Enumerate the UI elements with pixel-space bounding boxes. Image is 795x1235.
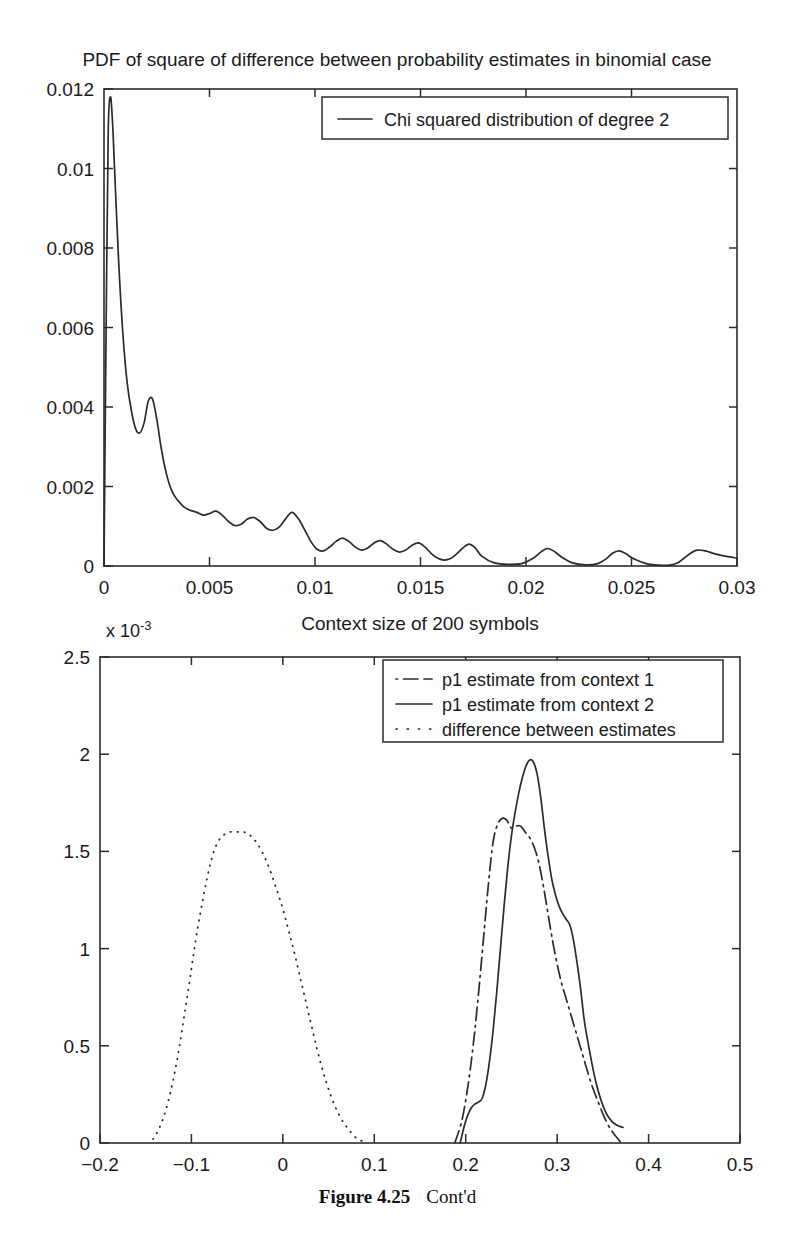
bottom-chart-series-difference [153, 832, 362, 1141]
x-tick-label: 0.025 [608, 577, 656, 598]
figure-canvas: PDF of square of difference between prob… [0, 0, 795, 1235]
x-tick-label: 0.2 [453, 1154, 479, 1175]
figure-caption-label: Figure 4.25 [319, 1186, 410, 1207]
top-chart-x-ticks [104, 89, 737, 566]
bottom-chart-y-multiplier: x 10-3 [106, 618, 152, 641]
bottom-chart-x-ticklabels: −0.2−0.100.10.20.30.40.5 [81, 1154, 753, 1175]
bottom-chart: Context size of 200 symbols x 10-3 00.51… [64, 613, 754, 1175]
y-tick-label: 0.006 [46, 318, 94, 339]
figure-caption: Figure 4.25Cont'd [0, 1186, 795, 1208]
x-tick-label: −0.1 [173, 1154, 211, 1175]
x-tick-label: 0.5 [727, 1154, 753, 1175]
bottom-chart-y-multiplier-exponent: -3 [140, 618, 152, 633]
y-tick-label: 0 [79, 1133, 90, 1154]
top-chart-y-ticks [104, 89, 737, 566]
x-tick-label: 0.02 [508, 577, 545, 598]
top-chart-x-ticklabels: 00.0050.010.0150.020.0250.03 [99, 577, 756, 598]
bottom-legend-label-0: p1 estimate from context 1 [442, 670, 654, 690]
y-tick-label: 0.5 [64, 1036, 90, 1057]
x-tick-label: 0.015 [397, 577, 445, 598]
y-tick-label: 2 [79, 744, 90, 765]
top-chart: PDF of square of difference between prob… [46, 49, 755, 598]
top-chart-series-chi-squared [104, 97, 737, 566]
y-tick-label: 1 [79, 939, 90, 960]
x-tick-label: 0.03 [719, 577, 756, 598]
x-tick-label: 0.3 [544, 1154, 570, 1175]
x-tick-label: 0.4 [635, 1154, 662, 1175]
y-tick-label: 0.008 [46, 238, 94, 259]
bottom-legend-label-2: difference between estimates [442, 720, 676, 740]
top-chart-y-ticklabels: 00.0020.0040.0060.0080.010.012 [46, 79, 94, 577]
bottom-chart-series-context-1 [455, 818, 621, 1143]
y-tick-label: 0 [83, 556, 94, 577]
figure-page: PDF of square of difference between prob… [0, 0, 795, 1235]
y-tick-label: 2.5 [64, 647, 90, 668]
bottom-legend-label-1: p1 estimate from context 2 [442, 695, 654, 715]
y-tick-label: 0.012 [46, 79, 94, 100]
y-tick-label: 1.5 [64, 841, 90, 862]
bottom-chart-legend[interactable]: p1 estimate from context 1 p1 estimate f… [383, 660, 723, 742]
x-tick-label: 0.005 [186, 577, 234, 598]
x-tick-label: 0.1 [361, 1154, 387, 1175]
top-chart-frame [104, 89, 737, 566]
y-tick-label: 0.002 [46, 477, 94, 498]
top-chart-title: PDF of square of difference between prob… [82, 49, 711, 70]
figure-caption-text: Cont'd [426, 1186, 476, 1207]
x-tick-label: 0 [99, 577, 110, 598]
bottom-chart-y-ticklabels: 00.511.522.5 [64, 647, 90, 1154]
top-chart-legend[interactable]: Chi squared distribution of degree 2 [322, 97, 728, 139]
y-tick-label: 0.01 [57, 159, 94, 180]
bottom-chart-title: Context size of 200 symbols [301, 613, 539, 634]
x-tick-label: 0.01 [297, 577, 334, 598]
x-tick-label: −0.2 [81, 1154, 119, 1175]
y-tick-label: 0.004 [46, 397, 94, 418]
x-tick-label: 0 [278, 1154, 289, 1175]
bottom-chart-series-context-2 [460, 760, 623, 1143]
top-legend-label-0: Chi squared distribution of degree 2 [384, 110, 669, 130]
